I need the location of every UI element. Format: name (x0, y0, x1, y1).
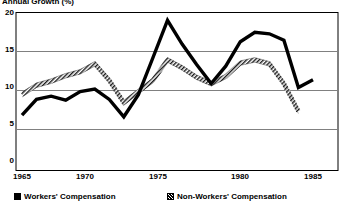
chart-legend: Workers' Compensation Non-Workers' Compe… (0, 191, 349, 205)
solid-square-icon (14, 193, 21, 200)
hatched-square-icon (167, 193, 174, 200)
legend-item-non-workers-compensation: Non-Workers' Compensation (167, 192, 287, 201)
legend-label-non-workers-compensation: Non-Workers' Compensation (177, 192, 287, 201)
series-line-workers-compensation (22, 20, 313, 116)
legend-item-workers-compensation: Workers' Compensation (14, 192, 116, 201)
legend-label-workers-compensation: Workers' Compensation (24, 192, 116, 201)
chart-container: Annual Growth (%) 20 15 10 5 0 1965 1970… (0, 0, 349, 208)
plot-area (0, 0, 349, 208)
